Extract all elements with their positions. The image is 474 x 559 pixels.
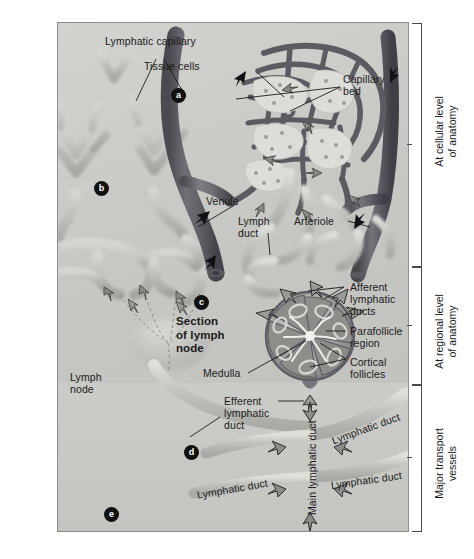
- label-capillary-bed: Capillary bed: [343, 73, 385, 97]
- label-tissue-cells: Tissue cells: [144, 60, 200, 72]
- bracket-regional-label: At regional level of anatomy: [433, 272, 458, 392]
- marker-a: a: [171, 88, 186, 103]
- bracket-transport-label: Major transport vessels: [433, 404, 458, 524]
- label-lymph-duct: Lymph duct: [238, 215, 270, 239]
- label-section-of-lymph-node: Section of lymph node: [176, 315, 225, 356]
- bracket-cellular-label: At cellular level of anatomy: [433, 72, 458, 192]
- illustration-panel: Lymphatic capillary Tissue cells Capilla…: [57, 22, 409, 532]
- label-main-lymphatic-duct: Main lymphatic duct: [306, 420, 318, 515]
- label-afferent-lymphatic-ducts: Afferent lymphatic ducts: [350, 281, 395, 317]
- anatomy-artwork: [58, 23, 408, 531]
- label-parafollicle-region: Parafollicle region: [350, 325, 403, 349]
- marker-d: d: [184, 445, 199, 460]
- label-medulla: Medulla: [203, 367, 240, 379]
- label-cortical-follicles: Cortical follicles: [350, 356, 386, 380]
- label-lymph-node: Lymph node: [70, 371, 102, 395]
- label-efferent-lymphatic-duct: Efferent lymphatic duct: [224, 395, 269, 431]
- marker-c: c: [194, 295, 209, 310]
- marker-b: b: [94, 181, 109, 196]
- label-arteriole: Arteriole: [294, 215, 334, 227]
- label-venule: Venule: [206, 195, 239, 207]
- figure-canvas: Lymphatic capillary Tissue cells Capilla…: [0, 0, 474, 559]
- label-lymphatic-capillary: Lymphatic capillary: [105, 35, 196, 47]
- marker-e: e: [104, 507, 119, 522]
- label-blood-circulation: Blood circulation: [80, 529, 128, 532]
